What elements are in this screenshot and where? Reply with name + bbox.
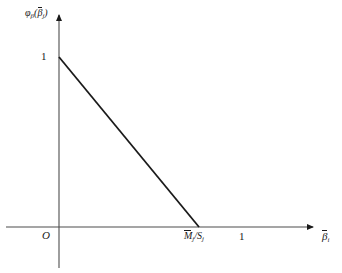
x-axis-label: βi — [322, 231, 329, 244]
y-axis-label: φβ(βj) — [25, 8, 48, 20]
x-label-beta-subscript: i — [327, 236, 329, 244]
y-tick-label-1: 1 — [41, 51, 47, 62]
x-tick-m: M — [184, 231, 192, 241]
chart-figure: φβ(βj) 1 O Mj/Sj 1 βi — [0, 0, 342, 273]
x-tick-s-subscript: j — [202, 235, 204, 243]
x-label-beta-bar: β — [322, 231, 327, 242]
origin-label: O — [42, 230, 50, 241]
x-tick-label-1: 1 — [239, 231, 245, 242]
x-tick-slash-s: /S — [194, 230, 202, 241]
x-tick-label-m-over-s: Mj/Sj — [184, 231, 204, 243]
y-label-beta-bar: β — [37, 8, 42, 18]
chart-canvas — [0, 0, 342, 273]
data-line-phi — [59, 57, 199, 227]
y-label-close-paren: ) — [44, 7, 47, 18]
